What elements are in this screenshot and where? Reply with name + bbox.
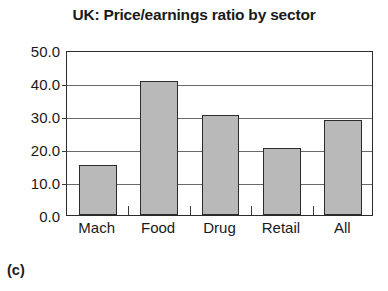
y-tick-mark xyxy=(62,118,67,119)
y-tick-label: 30.0 xyxy=(2,110,60,125)
y-tick-mark xyxy=(62,151,67,152)
x-tick-label-retail: Retail xyxy=(250,220,311,237)
bar-drug xyxy=(202,115,240,215)
x-tick-mark xyxy=(251,206,252,215)
y-tick-label: 20.0 xyxy=(2,143,60,158)
x-tick-label-mach: Mach xyxy=(66,220,127,237)
y-tick-label: 40.0 xyxy=(2,77,60,92)
plot-area xyxy=(66,51,373,216)
y-tick-label: 50.0 xyxy=(2,44,60,59)
figure-caption: (c) xyxy=(7,262,25,278)
gridline-40.0 xyxy=(67,85,372,86)
y-tick-mark xyxy=(62,85,67,86)
x-tick-mark xyxy=(190,206,191,215)
y-axis: 50.040.030.020.010.00.0 xyxy=(0,51,60,216)
bar-food xyxy=(140,81,178,215)
y-tick-label: 0.0 xyxy=(2,209,60,224)
y-tick-mark xyxy=(62,184,67,185)
figure-panel: UK: Price/earnings ratio by sector 50.04… xyxy=(0,0,388,291)
x-tick-mark xyxy=(128,206,129,215)
chart-title: UK: Price/earnings ratio by sector xyxy=(0,6,388,24)
x-tick-label-food: Food xyxy=(127,220,188,237)
x-tick-label-all: All xyxy=(312,220,373,237)
x-tick-label-drug: Drug xyxy=(189,220,250,237)
bar-retail xyxy=(263,148,301,215)
x-tick-mark xyxy=(313,206,314,215)
y-tick-label: 10.0 xyxy=(2,176,60,191)
x-axis: MachFoodDrugRetailAll xyxy=(66,220,373,244)
bar-all xyxy=(324,120,362,215)
bar-mach xyxy=(79,165,117,215)
